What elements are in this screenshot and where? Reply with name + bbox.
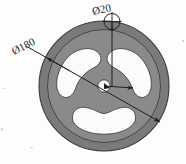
outer-diameter-label: Ø180 (9, 35, 37, 57)
drawing-canvas: Ø20 Ø180 (0, 0, 186, 164)
hole-diameter-label: Ø20 (91, 1, 113, 17)
flywheel-drawing: Ø20 Ø180 (0, 0, 186, 164)
figure-caption (0, 152, 186, 164)
